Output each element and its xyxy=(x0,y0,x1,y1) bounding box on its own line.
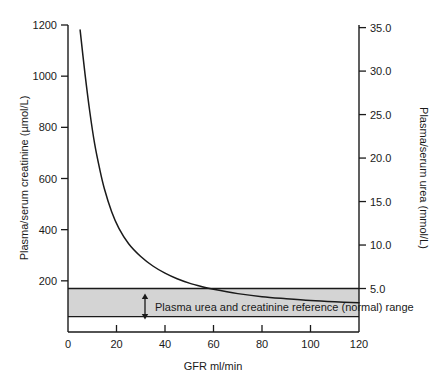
x-tick-label: 80 xyxy=(256,338,268,350)
y2-tick-label: 20.0 xyxy=(370,152,391,164)
y-tick-label: 1000 xyxy=(33,70,57,82)
chart-svg: 20040060080010001200 5.010.015.020.025.0… xyxy=(0,0,441,387)
y-tick-label: 800 xyxy=(39,121,57,133)
y-tick-label: 600 xyxy=(39,173,57,185)
chart-background xyxy=(0,0,441,387)
x-tick-label: 0 xyxy=(65,338,71,350)
y2-tick-label: 25.0 xyxy=(370,109,391,121)
y2-tick-label: 35.0 xyxy=(370,22,391,34)
y-tick-label: 1200 xyxy=(33,19,57,31)
x-tick-label: 20 xyxy=(110,338,122,350)
x-tick-label: 100 xyxy=(301,338,319,350)
y-axis-title: Plasma/serum creatinine (µmol/L) xyxy=(18,96,30,261)
y2-tick-label: 5.0 xyxy=(370,283,385,295)
x-tick-label: 60 xyxy=(207,338,219,350)
x-tick-label: 40 xyxy=(159,338,171,350)
x-tick-label: 120 xyxy=(350,338,368,350)
y-tick-label: 200 xyxy=(39,275,57,287)
y-tick-label: 400 xyxy=(39,224,57,236)
chart-figure: 20040060080010001200 5.010.015.020.025.0… xyxy=(0,0,441,387)
y2-axis-title: Plasma/serum urea (mmol/L) xyxy=(418,107,430,249)
y2-tick-label: 10.0 xyxy=(370,239,391,251)
x-axis-title: GFR ml/min xyxy=(184,360,243,372)
y2-tick-label: 30.0 xyxy=(370,65,391,77)
y2-tick-label: 15.0 xyxy=(370,196,391,208)
reference-range-label: Plasma urea and creatinine reference (no… xyxy=(155,301,414,313)
